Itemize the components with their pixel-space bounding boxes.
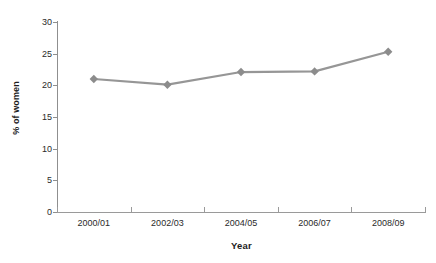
data-point-marker: [384, 48, 392, 56]
x-axis-tick-mark: [425, 207, 426, 212]
y-axis-tick-label: 30: [28, 18, 52, 27]
y-axis-tick-mark: [53, 85, 57, 86]
y-axis-tick-label: 0: [28, 208, 52, 217]
y-axis-tick-mark: [53, 117, 57, 118]
y-axis-tick-label: 20: [28, 81, 52, 90]
x-axis-tick-mark: [204, 207, 205, 212]
x-axis-tick-label: 2000/01: [78, 218, 111, 229]
data-point-marker: [163, 81, 171, 89]
line-chart: % of women 051015202530 2000/012002/0320…: [0, 0, 436, 263]
x-axis-title: Year: [57, 240, 426, 251]
x-axis-tick-label: 2008/09: [372, 218, 405, 229]
data-point-marker: [237, 68, 245, 76]
x-axis-line: [57, 212, 426, 213]
x-axis-tick-label: 2004/05: [225, 218, 258, 229]
y-axis-line: [57, 21, 58, 213]
x-axis-tick-mark: [57, 207, 58, 212]
y-axis-tick-mark: [53, 180, 57, 181]
series-line: [94, 52, 388, 85]
x-axis-tick-mark: [351, 207, 352, 212]
y-axis-tick-label: 25: [28, 49, 52, 58]
y-axis-tick-label: 15: [28, 113, 52, 122]
y-axis-tick-mark: [53, 22, 57, 23]
y-axis-tick-label: 5: [28, 176, 52, 185]
data-point-marker: [310, 67, 318, 75]
y-axis-tick-mark: [53, 212, 57, 213]
data-point-marker: [90, 75, 98, 83]
x-axis-tick-label: 2006/07: [298, 218, 331, 229]
x-axis-tick-mark: [131, 207, 132, 212]
x-axis-tick-labels: 2000/012002/032004/052006/072008/09: [0, 218, 436, 232]
y-axis-title: % of women: [4, 0, 28, 215]
x-axis-tick-mark: [278, 207, 279, 212]
y-axis-title-label: % of women: [11, 81, 21, 135]
y-axis-tick-mark: [53, 149, 57, 150]
y-axis-tick-label: 10: [28, 144, 52, 153]
x-axis-tick-label: 2002/03: [151, 218, 184, 229]
y-axis-tick-mark: [53, 54, 57, 55]
